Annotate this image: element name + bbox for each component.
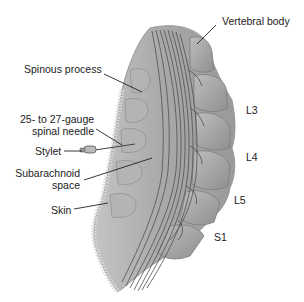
- label-spinous-process: Spinous process: [24, 63, 102, 75]
- label-vertebral-body: Vertebral body: [222, 15, 290, 27]
- label-level-l3: L3: [246, 104, 258, 116]
- label-subarachnoid-line1: Subarachnoid: [10, 167, 80, 179]
- label-level-s1: S1: [214, 231, 227, 243]
- label-stylet: Stylet: [35, 145, 61, 157]
- label-level-l4: L4: [246, 151, 258, 163]
- label-level-l5: L5: [234, 194, 246, 206]
- label-needle-line2: spinal needle: [20, 125, 94, 137]
- spine-diagram: Vertebral body Spinous process 25- to 27…: [0, 0, 304, 302]
- label-needle-line1: 25- to 27-gauge: [20, 113, 94, 125]
- label-skin: Skin: [51, 204, 71, 216]
- label-subarachnoid-line2: space: [10, 179, 80, 191]
